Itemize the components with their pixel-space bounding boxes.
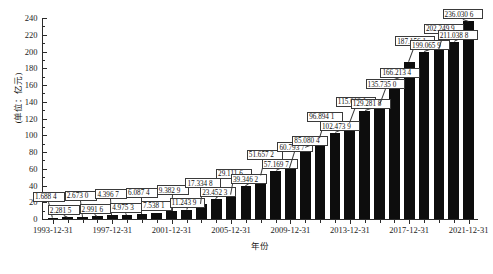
y-tick-label: 40 [16, 182, 38, 191]
x-tick-label: 2017-12-31 [380, 226, 438, 235]
x-tick-mark-minor [454, 220, 455, 223]
x-tick-mark-minor [424, 220, 425, 223]
bar [77, 217, 88, 219]
x-tick-label: 2001-12-31 [143, 226, 201, 235]
x-tick-label: 2005-12-31 [202, 226, 260, 235]
label-leader-line [126, 213, 128, 215]
bar-value-label: 166.213 4 [380, 68, 420, 78]
bar [151, 213, 162, 219]
bar [330, 133, 341, 219]
x-tick-mark [350, 220, 351, 224]
x-tick-label: 1993-12-31 [24, 226, 82, 235]
y-tick-mark [43, 18, 47, 19]
bar [137, 214, 148, 219]
y-axis-line [42, 18, 43, 220]
y-tick-mark-minor [43, 160, 46, 161]
x-axis-line [42, 219, 479, 220]
y-tick-mark [43, 169, 47, 170]
x-tick-mark-minor [83, 220, 84, 223]
x-tick-mark-minor [127, 220, 128, 223]
bar-value-label: 4.396 7 [95, 189, 127, 199]
x-tick-label: 1997-12-31 [83, 226, 141, 235]
bar-value-label: 85.080 4 [292, 136, 328, 146]
x-tick-mark [53, 220, 54, 224]
x-tick-mark [290, 220, 291, 224]
y-tick-mark [43, 119, 47, 120]
y-tick-label: 100 [16, 131, 38, 140]
y-tick-label: 120 [16, 115, 38, 124]
bar [122, 215, 133, 219]
x-tick-label: 2009-12-31 [261, 226, 319, 235]
x-tick-mark-minor [246, 220, 247, 223]
x-tick-mark-minor [68, 220, 69, 223]
bar [270, 171, 281, 219]
bar [315, 138, 326, 219]
y-tick-label: 80 [16, 148, 38, 157]
y-tick-mark [43, 152, 47, 153]
y-tick-mark [43, 202, 47, 203]
y-tick-label: 220 [16, 31, 38, 40]
label-leader-line [186, 207, 188, 209]
y-tick-mark-minor [43, 127, 46, 128]
bar [374, 105, 385, 219]
bar [211, 199, 222, 219]
bar [226, 195, 237, 219]
bar-value-label: 39.346 2 [231, 174, 267, 184]
x-tick-mark-minor [157, 220, 158, 223]
bar-value-label: 2.991 6 [80, 204, 112, 214]
bar [181, 210, 192, 219]
x-tick-mark-minor [142, 220, 143, 223]
bar [300, 148, 311, 219]
y-tick-mark-minor [43, 177, 46, 178]
y-tick-mark-minor [43, 77, 46, 78]
bar [241, 186, 252, 219]
y-tick-mark [43, 85, 47, 86]
x-tick-mark [112, 220, 113, 224]
x-tick-mark-minor [365, 220, 366, 223]
y-tick-mark-minor [43, 60, 46, 61]
bar-value-label: 236.030 6 [443, 9, 483, 19]
bar [463, 21, 474, 219]
y-tick-mark [43, 52, 47, 53]
bar-value-label: 135.735 0 [366, 79, 406, 89]
x-axis-title: 年份 [220, 239, 300, 251]
y-tick-mark-minor [43, 26, 46, 27]
x-tick-mark-minor [439, 220, 440, 223]
x-tick-mark-minor [380, 220, 381, 223]
x-tick-mark-minor [97, 220, 98, 223]
y-tick-label: 240 [16, 14, 38, 23]
y-tick-label: 0 [16, 215, 38, 224]
y-tick-mark-minor [43, 93, 46, 94]
bar [285, 168, 296, 219]
x-tick-mark [469, 220, 470, 224]
bar-value-label: 1.688 4 [33, 192, 65, 202]
x-tick-label: 2013-12-31 [321, 226, 379, 235]
bar [166, 211, 177, 219]
x-tick-mark-minor [276, 220, 277, 223]
bar-value-label: 6.087 4 [126, 188, 158, 198]
y-tick-mark [43, 102, 47, 103]
bar-value-label: 7.538 1 [141, 201, 173, 211]
y-tick-mark-minor [43, 43, 46, 44]
bar-value-label: 2.281 5 [48, 205, 80, 215]
y-tick-label: 160 [16, 81, 38, 90]
y-tick-mark-minor [43, 144, 46, 145]
y-tick-label: 60 [16, 165, 38, 174]
bar [107, 215, 118, 219]
x-tick-mark [231, 220, 232, 224]
x-tick-mark-minor [305, 220, 306, 223]
bar [344, 123, 355, 219]
x-tick-mark-minor [201, 220, 202, 223]
bar-value-label: 4.975 3 [110, 203, 142, 213]
bar-value-label: 199.065 9 [410, 40, 450, 50]
y-tick-mark [43, 135, 47, 136]
bar [359, 111, 370, 219]
x-tick-mark [409, 220, 410, 224]
y-tick-mark [43, 68, 47, 69]
x-tick-mark-minor [261, 220, 262, 223]
y-tick-label: 200 [16, 48, 38, 57]
x-tick-label: 2021-12-31 [440, 226, 493, 235]
bar-value-label: 102.473 9 [320, 121, 360, 131]
x-tick-mark-minor [394, 220, 395, 223]
